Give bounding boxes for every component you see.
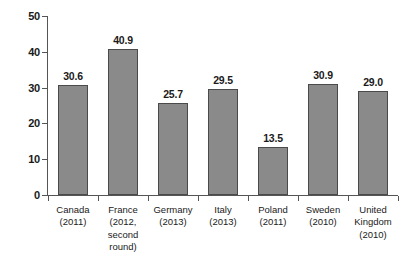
bar[interactable]	[158, 103, 188, 195]
category-label: UnitedKingdom(2010)	[348, 204, 398, 241]
x-axis-tick-mark	[98, 196, 99, 201]
y-axis-tick-label: 30	[0, 83, 40, 94]
bar-group[interactable]: 29.5	[208, 16, 238, 195]
x-axis-tick-mark	[298, 196, 299, 201]
bar[interactable]	[308, 84, 338, 195]
category-label-line: (2012,	[98, 216, 148, 228]
category-label-line: (2013)	[148, 216, 198, 228]
category-label: Italy(2013)	[198, 204, 248, 229]
category-label-line: (2011)	[48, 216, 98, 228]
category-label-line: Kingdom	[348, 216, 398, 228]
y-axis-tick-label: 20	[0, 118, 40, 129]
bar-value-label: 30.9	[297, 70, 349, 81]
category-label-line: Germany	[148, 204, 198, 216]
category-label-line: United	[348, 204, 398, 216]
y-axis-tick-label: 10	[0, 154, 40, 165]
bar-value-label: 25.7	[147, 89, 199, 100]
category-label-line: (2011)	[248, 216, 298, 228]
y-axis-tick-label: 50	[0, 11, 40, 22]
y-axis-tick-mark	[42, 159, 47, 160]
category-label-line: (2010)	[348, 229, 398, 241]
bar-value-label: 30.6	[47, 71, 99, 82]
category-label: France(2012,secondround)	[98, 204, 148, 254]
category-label-line: Poland	[248, 204, 298, 216]
y-axis-tick-label: 40	[0, 47, 40, 58]
bar-group[interactable]: 13.5	[258, 16, 288, 195]
category-label: Canada(2011)	[48, 204, 98, 229]
y-axis-tick-label: 0	[0, 190, 40, 201]
bar-chart: 01020304050 30.640.925.729.513.530.929.0…	[0, 0, 410, 265]
category-label-line: second	[98, 229, 148, 241]
category-label-line: France	[98, 204, 148, 216]
bar[interactable]	[258, 147, 288, 195]
y-axis-tick-mark	[42, 52, 47, 53]
bar[interactable]	[358, 91, 388, 195]
bar-value-label: 13.5	[247, 133, 299, 144]
category-label-line: Italy	[198, 204, 248, 216]
bar-value-label: 40.9	[97, 35, 149, 46]
x-axis-tick-mark	[148, 196, 149, 201]
bar-group[interactable]: 30.9	[308, 16, 338, 195]
category-label-line: round)	[98, 241, 148, 253]
bar-group[interactable]: 25.7	[158, 16, 188, 195]
bar-value-label: 29.5	[197, 75, 249, 86]
y-axis-tick-mark	[42, 16, 47, 17]
x-axis-tick-mark	[348, 196, 349, 201]
category-label-line: Canada	[48, 204, 98, 216]
category-label-line: Sweden	[298, 204, 348, 216]
category-label-line: (2013)	[198, 216, 248, 228]
x-axis-category-labels: Canada(2011)France(2012,secondround)Germ…	[48, 204, 398, 265]
plot-area: 30.640.925.729.513.530.929.0	[48, 16, 398, 195]
x-axis-tick-mark	[198, 196, 199, 201]
x-axis-tick-mark	[398, 196, 399, 201]
x-axis-tick-mark	[248, 196, 249, 201]
y-axis-tick-mark	[42, 123, 47, 124]
y-axis-tick-mark	[42, 88, 47, 89]
x-axis-tick-mark	[48, 196, 49, 201]
category-label: Poland(2011)	[248, 204, 298, 229]
bar[interactable]	[58, 85, 88, 195]
category-label-line: (2010)	[298, 216, 348, 228]
category-label: Sweden(2010)	[298, 204, 348, 229]
bar-group[interactable]: 40.9	[108, 16, 138, 195]
bar-group[interactable]: 29.0	[358, 16, 388, 195]
bar[interactable]	[208, 89, 238, 195]
bar-value-label: 29.0	[347, 77, 399, 88]
bar[interactable]	[108, 49, 138, 195]
x-axis-line	[47, 195, 398, 196]
bar-group[interactable]: 30.6	[58, 16, 88, 195]
category-label: Germany(2013)	[148, 204, 198, 229]
